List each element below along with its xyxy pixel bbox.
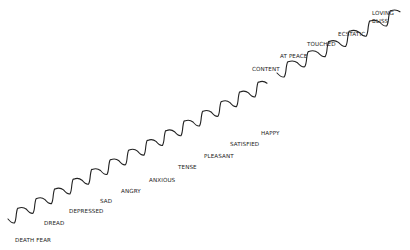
emotion-label-at-peace: AT PEACE bbox=[280, 53, 307, 59]
emotion-label-pleasant: PLEASANT bbox=[204, 153, 234, 159]
emotion-label-tense: TENSE bbox=[178, 164, 197, 170]
emotion-label-content: CONTENT bbox=[252, 66, 280, 72]
emotion-label-dread: DREAD bbox=[44, 220, 64, 226]
emotion-label-loving: LOVING bbox=[372, 10, 394, 16]
emotion-label-satisfied: SATISFIED bbox=[230, 141, 259, 147]
emotion-label-depressed: DEPRESSED bbox=[69, 208, 103, 214]
emotion-label-happy: HAPPY bbox=[261, 130, 280, 136]
emotion-label-anxious: ANXIOUS bbox=[149, 177, 175, 183]
emotion-label-sad: SAD bbox=[100, 198, 112, 204]
emotion-label-angry: ANGRY bbox=[121, 188, 141, 194]
emotion-label-ecstatic: ECSTATIC bbox=[338, 31, 365, 37]
emotion-label-bliss: BLISS bbox=[372, 18, 388, 24]
emotion-label-touched: TOUCHED bbox=[307, 41, 336, 47]
staircase-diagram bbox=[0, 0, 410, 250]
emotion-label-death-fear: DEATH FEAR bbox=[15, 237, 51, 243]
